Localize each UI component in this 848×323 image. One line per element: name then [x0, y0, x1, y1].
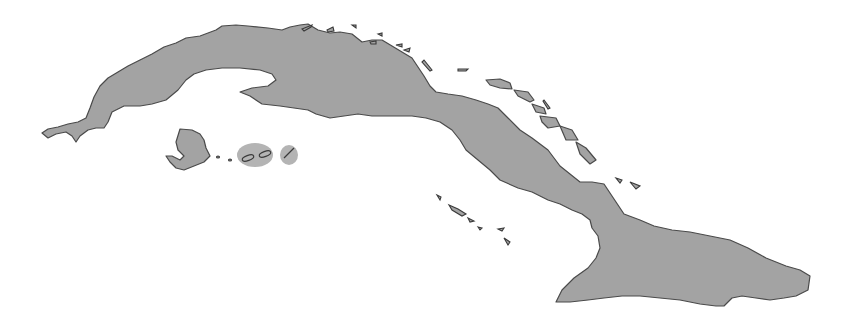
north-cay-large: [532, 104, 546, 114]
isla-de-la-juventud: [166, 129, 210, 170]
north-cay: [396, 44, 402, 47]
north-cay: [370, 41, 376, 44]
north-cay-large: [514, 90, 534, 102]
north-cay-large: [486, 79, 512, 89]
north-cay: [422, 60, 432, 71]
cuba-map: [0, 0, 848, 323]
north-cay-large: [576, 142, 596, 164]
north-cay: [458, 69, 468, 71]
south-cay: [504, 238, 510, 245]
north-cay: [404, 48, 410, 52]
cay-dot: [229, 159, 232, 161]
south-cay: [437, 195, 441, 200]
south-cay: [498, 228, 504, 231]
cayo-largo-shoal: [280, 145, 298, 165]
south-cay: [468, 218, 474, 222]
north-cay: [378, 33, 382, 36]
south-cay: [449, 205, 466, 216]
north-cay: [352, 25, 356, 28]
north-cay-large: [560, 126, 578, 140]
north-cay-large: [540, 116, 560, 128]
north-cay: [616, 178, 622, 183]
south-cay: [478, 227, 482, 230]
cay-dot: [217, 156, 220, 158]
north-cay: [630, 182, 640, 189]
north-cay: [327, 27, 334, 32]
